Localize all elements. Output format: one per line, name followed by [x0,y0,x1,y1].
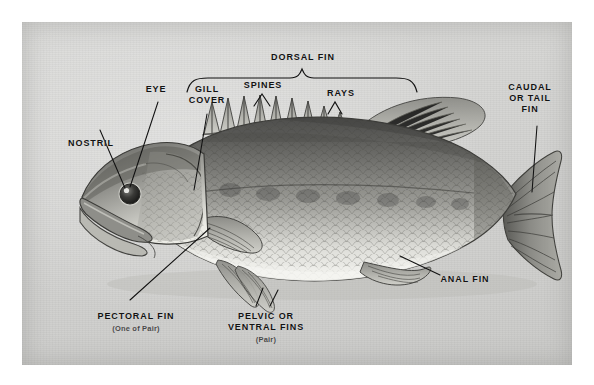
label-spines: SPINES [228,80,298,91]
label-pectoral-fin-note: (One of Pair) [76,323,196,334]
label-anal-fin: ANAL FIN [420,274,510,285]
fish-head-art [80,143,212,258]
label-pelvic-fin: PELVIC OR VENTRAL FINS (Pair) [206,300,326,356]
label-dorsal-fin: DORSAL FIN [254,52,352,63]
label-pelvic-fin-text: PELVIC OR VENTRAL FINS [228,311,304,332]
label-caudal-fin: CAUDAL OR TAIL FIN [490,82,570,115]
label-pelvic-fin-note: (Pair) [206,334,326,345]
label-pectoral-fin: PECTORAL FIN (One of Pair) [76,300,196,345]
fish-anatomy-diagram: NOSTRIL EYE GILL COVER DORSAL FIN SPINES… [0,0,594,385]
label-rays: RAYS [310,88,372,99]
caudal-fin-art [504,151,562,280]
label-nostril: NOSTRIL [56,138,126,149]
label-pectoral-fin-text: PECTORAL FIN [98,311,175,321]
diagram-plate: NOSTRIL EYE GILL COVER DORSAL FIN SPINES… [22,22,572,365]
